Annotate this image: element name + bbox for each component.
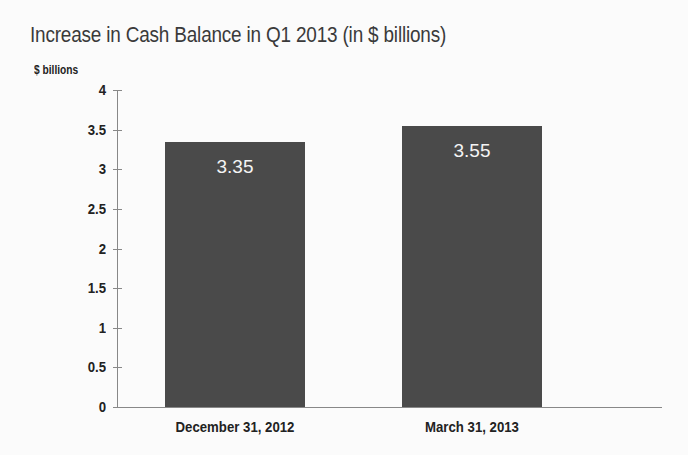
y-tick-label: 1 xyxy=(71,319,106,336)
bar-value-label: 3.55 xyxy=(402,140,542,162)
y-tick-label: 1.5 xyxy=(71,279,106,296)
y-tick-label: 3.5 xyxy=(71,121,106,138)
y-tick-label: 3 xyxy=(71,160,106,177)
y-tick-label: 2 xyxy=(71,240,106,257)
y-axis-label: $ billions xyxy=(34,63,78,77)
y-tick xyxy=(113,288,122,289)
chart-title: Increase in Cash Balance in Q1 2013 (in … xyxy=(30,22,446,48)
y-tick-label: 0 xyxy=(71,398,106,415)
x-category-label: December 31, 2012 xyxy=(147,418,323,435)
y-tick xyxy=(113,209,122,210)
y-tick xyxy=(113,130,122,131)
y-tick xyxy=(113,90,122,91)
y-tick xyxy=(113,249,122,250)
y-tick-label: 0.5 xyxy=(71,358,106,375)
bar: 3.35 xyxy=(165,142,305,407)
x-axis xyxy=(117,407,662,408)
y-tick-label: 4 xyxy=(71,81,106,98)
y-tick xyxy=(113,367,122,368)
bar: 3.55 xyxy=(402,126,542,407)
y-tick-label: 2.5 xyxy=(71,200,106,217)
y-tick xyxy=(113,328,122,329)
x-category-label: March 31, 2013 xyxy=(384,418,560,435)
bar-value-label: 3.35 xyxy=(165,156,305,178)
y-tick xyxy=(113,407,122,408)
y-tick xyxy=(113,169,122,170)
